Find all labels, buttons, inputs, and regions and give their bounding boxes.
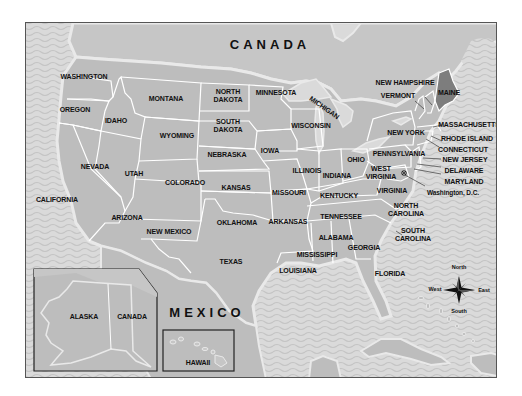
state-label-arkansas: ARKANSAS: [269, 218, 308, 226]
state-label-florida: FLORIDA: [375, 270, 405, 278]
state-label-delaware: DELAWARE: [445, 167, 484, 175]
inset-label-hawaii: HAWAII: [186, 359, 210, 367]
state-label-south-carolina: SOUTHCAROLINA: [395, 227, 431, 243]
state-label-minnesota: MINNESOTA: [256, 89, 297, 97]
state-label-colorado: COLORADO: [165, 179, 205, 187]
state-label-wisconsin: WISCONSIN: [291, 122, 331, 130]
state-label-alabama: ALABAMA: [319, 234, 354, 242]
inset-label-alaska: ALASKA: [70, 313, 99, 321]
state-label-idaho: IDAHO: [105, 117, 127, 125]
state-label-louisiana: LOUISIANA: [279, 267, 317, 275]
state-label-ohio: OHIO: [347, 156, 365, 164]
state-label-oregon: OREGON: [60, 106, 91, 114]
state-label-vermont: VERMONT: [381, 92, 415, 100]
state-label-kentucky: KENTUCKY: [320, 192, 358, 200]
state-label-new-jersey: NEW JERSEY: [443, 156, 488, 164]
state-label-maine: MAINE: [438, 89, 460, 97]
state-label-new-mexico: NEW MEXICO: [147, 228, 192, 236]
state-label-tennessee: TENNESSEE: [320, 213, 362, 221]
state-label-rhode-island: RHODE ISLAND: [441, 135, 493, 143]
state-label-west-virginia: WESTVIRGINIA: [366, 165, 396, 181]
state-label-south-dakota: SOUTHDAKOTA: [214, 118, 243, 134]
country-label-mexico: MEXICO: [169, 306, 244, 320]
state-label-montana: MONTANA: [149, 95, 184, 103]
state-label-california: CALIFORNIA: [36, 196, 78, 204]
compass-north-label: North: [452, 264, 467, 270]
state-label-georgia: GEORGIA: [348, 244, 380, 252]
label-washington-dc: Washington, D.C.: [427, 189, 479, 197]
state-label-connecticut: CONNECTICUT: [438, 146, 488, 154]
state-label-missouri: MISSOURI: [272, 189, 306, 197]
state-label-kansas: KANSAS: [222, 184, 251, 192]
state-label-indiana: INDIANA: [323, 172, 351, 180]
state-label-mississippi: MISSISSIPPI: [297, 251, 338, 259]
state-label-iowa: IOWA: [261, 147, 279, 155]
state-label-oklahoma: OKLAHOMA: [217, 219, 257, 227]
inset-label-canada: CANADA: [117, 313, 147, 321]
state-label-new-york: NEW YORK: [387, 129, 425, 137]
compass-west-label: West: [428, 286, 441, 292]
state-label-texas: TEXAS: [220, 258, 243, 266]
state-label-illinois: ILLINOIS: [293, 167, 322, 175]
state-label-maryland: MARYLAND: [445, 178, 484, 186]
state-label-nebraska: NEBRASKA: [208, 151, 247, 159]
state-label-new-hampshire: NEW HAMPSHIRE: [376, 79, 435, 87]
state-label-wyoming: WYOMING: [160, 132, 194, 140]
state-label-massachusetts: MASSACHUSETTS: [438, 121, 497, 129]
us-map: CANADA MEXICO WASHINGTON OREGON CALIFORN…: [25, 22, 497, 378]
state-label-virginia: VIRGINIA: [377, 187, 407, 195]
state-label-washington: WASHINGTON: [60, 73, 107, 81]
state-label-north-dakota: NORTHDAKOTA: [214, 88, 243, 104]
state-label-arizona: ARIZONA: [111, 214, 142, 222]
state-label-north-carolina: NORTHCAROLINA: [388, 202, 424, 218]
compass-south-label: South: [451, 308, 467, 314]
state-label-nevada: NEVADA: [81, 163, 109, 171]
compass-east-label: East: [478, 287, 490, 293]
state-label-pennsylvania: PENNSYLVANIA: [373, 150, 426, 158]
state-label-utah: UTAH: [125, 170, 144, 178]
country-label-canada: CANADA: [230, 38, 310, 52]
